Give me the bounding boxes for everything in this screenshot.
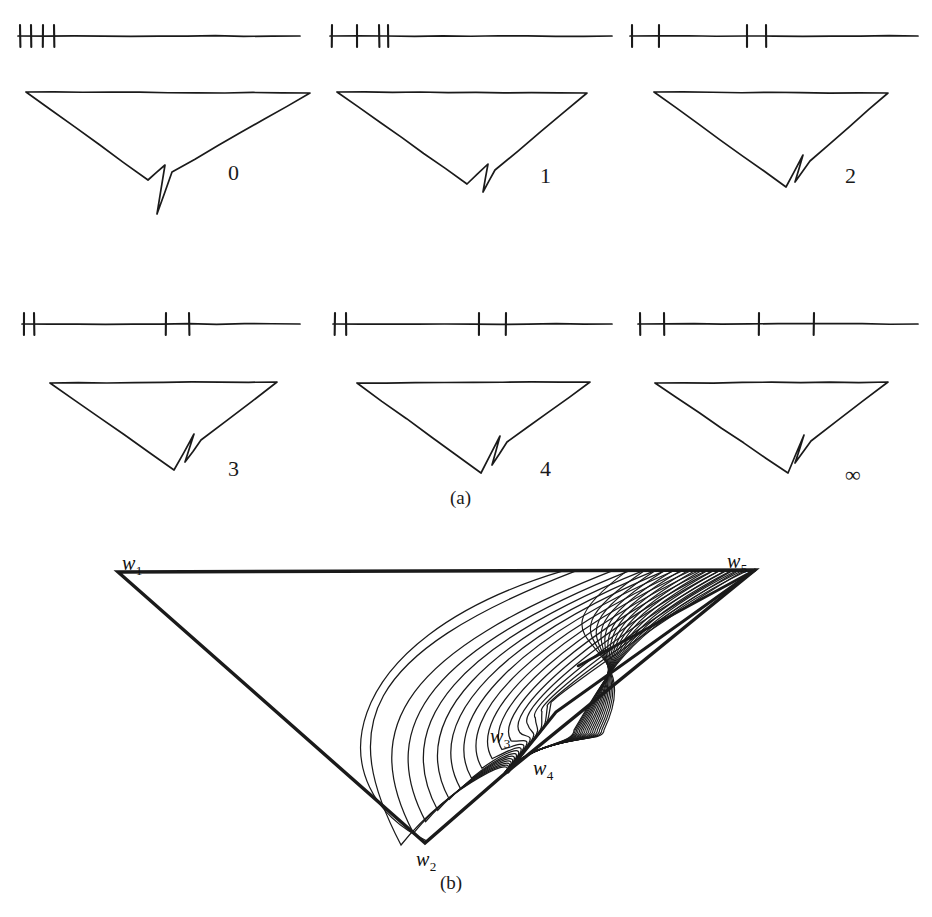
panels-group: [18, 25, 918, 473]
panel-label-4: 4: [540, 456, 551, 482]
panel-label-2: 2: [845, 163, 856, 189]
real-axis-1: [330, 25, 612, 47]
vertex-label-w5: w5: [727, 550, 747, 577]
streamline-family: [361, 570, 749, 845]
slit-polygon-4: [357, 382, 590, 473]
panel-2: [630, 25, 918, 187]
caption-a: (a): [450, 487, 471, 509]
partial-caption-strip: [60, 900, 760, 914]
panel-3: [22, 313, 300, 470]
slit-polygon-5: [655, 382, 888, 473]
real-axis-3: [22, 313, 300, 335]
slit-polygon-0: [26, 92, 310, 214]
real-axis-4: [333, 313, 612, 335]
panel-0: [18, 25, 310, 214]
streamline-inner-8: [502, 570, 702, 776]
slit-polygon-3: [50, 382, 277, 470]
panel-4: [333, 313, 612, 473]
panel-5: [638, 313, 918, 473]
vertex-label-w1: w1: [122, 552, 142, 579]
real-axis-2: [630, 25, 918, 47]
vertex-label-w2: w2: [416, 848, 436, 875]
real-axis-5: [638, 313, 918, 335]
streamline-0: [370, 571, 576, 845]
panel-label-3: 3: [228, 456, 239, 482]
streamline-10: [502, 570, 707, 776]
vertex-label-w3: w3: [490, 725, 510, 752]
panel-1: [330, 25, 612, 192]
panel-label-1: 1: [540, 163, 551, 189]
panel-label-0: 0: [228, 160, 239, 186]
figure-root: 0 1 2 3 4 ∞ (a) (b) w1 w5 w2 w3 w4: [0, 0, 932, 917]
figure-b-group: [118, 570, 755, 845]
streamline-inner-9: [502, 570, 709, 776]
figure-canvas: [0, 0, 932, 917]
panel-label-infinity: ∞: [845, 462, 861, 488]
real-axis-0: [18, 25, 300, 47]
vertex-label-w4: w4: [533, 757, 553, 784]
caption-b: (b): [440, 872, 462, 894]
